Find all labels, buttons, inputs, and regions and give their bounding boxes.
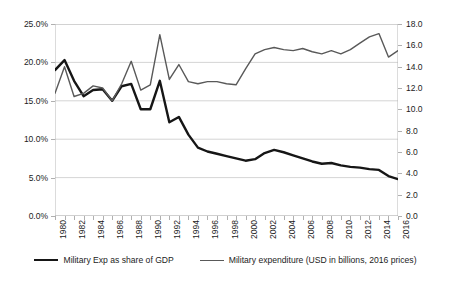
x-tick-label: 2008 — [326, 220, 335, 239]
y-right-tick-mark — [398, 67, 402, 68]
x-tick-mark — [112, 216, 113, 220]
y-right-tick-mark — [398, 24, 402, 25]
x-tick-label: 1996 — [211, 220, 220, 239]
x-tick-label: 2000 — [250, 220, 259, 239]
y-left-tick-mark — [51, 178, 55, 179]
x-tick-label: 1990 — [154, 220, 163, 239]
x-tick-mark — [379, 216, 380, 220]
x-tick-mark — [131, 216, 132, 220]
x-tick-mark — [55, 216, 56, 220]
plot-canvas — [55, 24, 398, 216]
series-line-1 — [55, 34, 398, 101]
legend-item[interactable]: Military Exp as share of GDP — [34, 256, 173, 265]
y-left-tick-mark — [51, 139, 55, 140]
x-tick-mark — [398, 216, 399, 220]
x-tick-mark — [322, 216, 323, 220]
y-right-tick-mark — [398, 152, 402, 153]
x-tick-label: 2014 — [383, 220, 392, 239]
y-right-tick-label: 18.0 — [406, 20, 446, 29]
y-right-tick-mark — [398, 45, 402, 46]
x-tick-label: 2006 — [307, 220, 316, 239]
y-left-tick-label: 15.0% — [2, 97, 48, 106]
y-right-tick-mark — [398, 195, 402, 196]
x-tick-mark — [246, 216, 247, 220]
legend-label: Military Exp as share of GDP — [63, 256, 173, 265]
x-tick-mark — [360, 216, 361, 220]
series-line-0 — [55, 60, 398, 179]
x-tick-label: 1982 — [78, 220, 87, 239]
y-right-tick-label: 12.0 — [406, 84, 446, 93]
y-left-tick-label: 0.0% — [2, 212, 48, 221]
x-tick-mark — [341, 216, 342, 220]
x-tick-mark — [150, 216, 151, 220]
x-tick-label: 2004 — [288, 220, 297, 239]
y-left-tick-mark — [51, 101, 55, 102]
x-tick-mark — [74, 216, 75, 220]
y-right-tick-mark — [398, 131, 402, 132]
y-left-tick-label: 25.0% — [2, 20, 48, 29]
chart-legend: Military Exp as share of GDPMilitary exp… — [0, 256, 451, 265]
x-tick-label: 1984 — [97, 220, 106, 239]
y-left-tick-label: 5.0% — [2, 173, 48, 182]
x-tick-mark — [303, 216, 304, 220]
x-tick-mark — [265, 216, 266, 220]
y-right-tick-mark — [398, 173, 402, 174]
x-tick-mark — [284, 216, 285, 220]
x-tick-mark — [188, 216, 189, 220]
legend-label: Military expenditure (USD in billions, 2… — [229, 256, 417, 265]
y-right-tick-mark — [398, 109, 402, 110]
legend-line-swatch-icon — [34, 259, 58, 261]
plot-area — [55, 24, 398, 216]
x-tick-label: 2012 — [364, 220, 373, 239]
y-right-tick-mark — [398, 88, 402, 89]
x-tick-mark — [227, 216, 228, 220]
y-right-tick-label: 8.0 — [406, 126, 446, 135]
y-left-tick-label: 10.0% — [2, 135, 48, 144]
x-tick-label: 1998 — [231, 220, 240, 239]
y-right-tick-label: 2.0 — [406, 190, 446, 199]
x-tick-mark — [169, 216, 170, 220]
x-tick-mark — [207, 216, 208, 220]
y-right-tick-label: 16.0 — [406, 41, 446, 50]
x-tick-label: 1988 — [135, 220, 144, 239]
y-right-tick-label: 14.0 — [406, 62, 446, 71]
y-right-tick-label: 4.0 — [406, 169, 446, 178]
x-tick-mark — [93, 216, 94, 220]
y-left-tick-mark — [51, 62, 55, 63]
x-tick-label: 1994 — [192, 220, 201, 239]
y-left-tick-mark — [51, 24, 55, 25]
y-right-tick-label: 0.0 — [406, 212, 446, 221]
x-tick-label: 2016 — [402, 220, 411, 239]
x-tick-label: 2010 — [345, 220, 354, 239]
x-tick-label: 1986 — [116, 220, 125, 239]
y-left-tick-label: 20.0% — [2, 58, 48, 67]
legend-item[interactable]: Military expenditure (USD in billions, 2… — [200, 256, 417, 265]
y-right-tick-label: 6.0 — [406, 148, 446, 157]
y-right-tick-label: 10.0 — [406, 105, 446, 114]
x-tick-label: 2002 — [269, 220, 278, 239]
x-tick-label: 1980 — [59, 220, 68, 239]
line-chart: 0.0%5.0%10.0%15.0%20.0%25.0% 0.02.04.06.… — [0, 0, 451, 284]
legend-line-swatch-icon — [200, 260, 224, 261]
x-tick-label: 1992 — [173, 220, 182, 239]
